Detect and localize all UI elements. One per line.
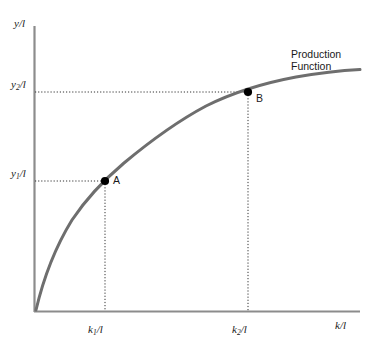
x-tick-label-k1: k1/l: [88, 324, 103, 336]
y-tick-label-y1: y1/l: [11, 168, 26, 180]
data-point-b: [244, 88, 252, 96]
point-b-label: B: [256, 93, 263, 104]
data-point-a: [101, 177, 109, 185]
point-a-label: A: [113, 175, 120, 186]
annotation-line-2: Function: [291, 60, 341, 72]
production-function-curve: [36, 70, 360, 311]
x-axis-title: k/l: [335, 320, 346, 332]
production-function-annotation: Production Function: [291, 48, 341, 73]
production-function-figure: y/l y2/l y1/l k1/l k2/l k/l A B Producti…: [0, 0, 366, 359]
annotation-line-1: Production: [291, 48, 341, 60]
x-tick-label-k2: k2/l: [232, 324, 247, 336]
y-axis-title: y/l: [14, 18, 25, 30]
y-tick-label-y2: y2/l: [11, 79, 26, 91]
